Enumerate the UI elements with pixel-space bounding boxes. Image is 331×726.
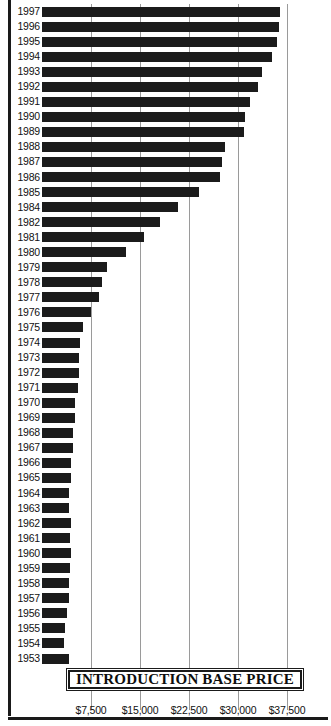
bar-row: 1969 bbox=[0, 411, 331, 426]
bar-row: 1990 bbox=[0, 110, 331, 125]
bar-row-year-label: 1980 bbox=[14, 246, 40, 259]
bar bbox=[42, 443, 73, 453]
bar bbox=[42, 368, 79, 378]
bar-row: 1970 bbox=[0, 396, 331, 411]
bar-row-year-label: 1981 bbox=[14, 231, 40, 244]
chart-title: INTRODUCTION BASE PRICE bbox=[76, 672, 294, 687]
bar-row: 1955 bbox=[0, 622, 331, 637]
bar-row: 1965 bbox=[0, 471, 331, 486]
bar-row: 1961 bbox=[0, 532, 331, 547]
bar-row-year-label: 1972 bbox=[14, 366, 40, 379]
bar-row: 1972 bbox=[0, 366, 331, 381]
bar-row: 1953 bbox=[0, 652, 331, 667]
bar-row-year-label: 1995 bbox=[14, 35, 40, 48]
bar bbox=[42, 458, 71, 468]
x-axis-tick-label: $7,500 bbox=[76, 704, 107, 717]
bar bbox=[42, 187, 199, 197]
bar bbox=[42, 413, 75, 423]
bar-row: 1993 bbox=[0, 65, 331, 80]
bar-row-year-label: 1977 bbox=[14, 291, 40, 304]
bar-row-year-label: 1975 bbox=[14, 321, 40, 334]
x-axis-tick-label: $22,500 bbox=[171, 704, 208, 717]
bar bbox=[42, 142, 225, 152]
bar-row: 1989 bbox=[0, 125, 331, 140]
bar-row-year-label: 1961 bbox=[14, 532, 40, 545]
bar-row-year-label: 1993 bbox=[14, 65, 40, 78]
bar bbox=[42, 52, 272, 62]
bar-row-year-label: 1996 bbox=[14, 20, 40, 33]
bar bbox=[42, 533, 70, 543]
bar-row-year-label: 1965 bbox=[14, 471, 40, 484]
bar-row: 1996 bbox=[0, 20, 331, 35]
bar-row-year-label: 1969 bbox=[14, 411, 40, 424]
bar bbox=[42, 97, 250, 107]
bar-row-year-label: 1956 bbox=[14, 607, 40, 620]
bar-row-year-label: 1964 bbox=[14, 487, 40, 500]
bar-row-year-label: 1974 bbox=[14, 336, 40, 349]
x-axis-tick-label: $15,000 bbox=[122, 704, 159, 717]
bar-row-year-label: 1953 bbox=[14, 652, 40, 665]
bar-row-year-label: 1984 bbox=[14, 201, 40, 214]
bar bbox=[42, 262, 107, 272]
bar-row: 1992 bbox=[0, 80, 331, 95]
bar bbox=[42, 172, 220, 182]
bar-row-year-label: 1971 bbox=[14, 381, 40, 394]
bar-row: 1967 bbox=[0, 441, 331, 456]
bar-row-year-label: 1954 bbox=[14, 637, 40, 650]
bar bbox=[42, 654, 69, 664]
bar-row: 1997 bbox=[0, 5, 331, 20]
bar bbox=[42, 157, 222, 167]
bar-row: 1956 bbox=[0, 607, 331, 622]
bar-row-year-label: 1997 bbox=[14, 5, 40, 18]
bar-row: 1964 bbox=[0, 487, 331, 502]
bar-row-year-label: 1992 bbox=[14, 80, 40, 93]
bar bbox=[42, 548, 71, 558]
bar-row: 1986 bbox=[0, 171, 331, 186]
bar bbox=[42, 503, 69, 513]
bar-row-year-label: 1994 bbox=[14, 50, 40, 63]
bar-row: 1985 bbox=[0, 186, 331, 201]
bar bbox=[42, 353, 79, 363]
bar-row: 1987 bbox=[0, 155, 331, 170]
bar-row: 1966 bbox=[0, 456, 331, 471]
bar-row: 1962 bbox=[0, 517, 331, 532]
x-axis-tick-label: $37,500 bbox=[269, 704, 306, 717]
bar bbox=[42, 202, 178, 212]
bar-row: 1988 bbox=[0, 140, 331, 155]
bar-row: 1980 bbox=[0, 246, 331, 261]
bar bbox=[42, 127, 244, 137]
bar bbox=[42, 112, 245, 122]
bar-row: 1959 bbox=[0, 562, 331, 577]
bar-row: 1973 bbox=[0, 351, 331, 366]
bar bbox=[42, 398, 75, 408]
bar bbox=[42, 82, 258, 92]
bar-row: 1984 bbox=[0, 201, 331, 216]
bar-row: 1977 bbox=[0, 291, 331, 306]
x-axis-tick-labels: $7,500$15,000$22,500$30,000$37,500 bbox=[0, 703, 331, 717]
bar bbox=[42, 322, 83, 332]
bar-row-year-label: 1973 bbox=[14, 351, 40, 364]
bar bbox=[42, 473, 71, 483]
bar-row: 1994 bbox=[0, 50, 331, 65]
bar-row: 1995 bbox=[0, 35, 331, 50]
bar-row-year-label: 1962 bbox=[14, 517, 40, 530]
bar-row: 1960 bbox=[0, 547, 331, 562]
bar bbox=[42, 22, 279, 32]
bar-row-year-label: 1986 bbox=[14, 171, 40, 184]
bar bbox=[42, 37, 277, 47]
bar-row: 1978 bbox=[0, 276, 331, 291]
bar bbox=[42, 277, 102, 287]
bar bbox=[42, 307, 91, 317]
bar-row-year-label: 1982 bbox=[14, 216, 40, 229]
bar-row-year-label: 1976 bbox=[14, 306, 40, 319]
bar-row-year-label: 1958 bbox=[14, 577, 40, 590]
bar-row: 1957 bbox=[0, 592, 331, 607]
bar-row-year-label: 1968 bbox=[14, 426, 40, 439]
bar-row-year-label: 1957 bbox=[14, 592, 40, 605]
bar-row-year-label: 1970 bbox=[14, 396, 40, 409]
bar-row: 1982 bbox=[0, 216, 331, 231]
bar-row: 1976 bbox=[0, 306, 331, 321]
bar-row-year-label: 1985 bbox=[14, 186, 40, 199]
bar bbox=[42, 518, 71, 528]
plot-area: 1997199619951994199319921991199019891988… bbox=[0, 0, 331, 726]
